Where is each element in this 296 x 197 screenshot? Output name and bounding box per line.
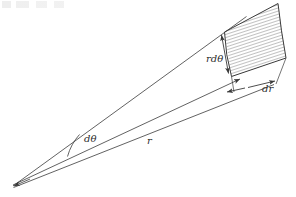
lower-radial-ray <box>14 85 275 188</box>
label-radial-thickness-dr: dr <box>262 84 273 94</box>
label-arc-length-rdtheta: rdθ <box>206 54 223 64</box>
diagram-canvas <box>0 0 296 197</box>
label-angle-dtheta: dθ <box>84 134 96 144</box>
dr-extension-line-inner <box>232 77 235 93</box>
polar-area-element-figure: rdθ dr dθ r <box>0 0 296 197</box>
radius-apex-arrow <box>14 179 30 186</box>
area-element-hatched <box>225 4 287 77</box>
label-radius-r: r <box>147 136 152 146</box>
upper-radial-ray <box>13 17 247 187</box>
dr-extension-line-outer <box>276 58 286 84</box>
dr-dimension-arrow-left <box>227 88 245 92</box>
radius-dimension-line <box>13 79 240 185</box>
